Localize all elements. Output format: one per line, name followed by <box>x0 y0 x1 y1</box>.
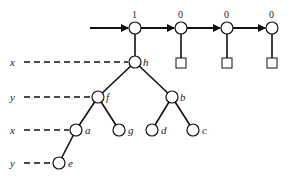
node-label-f: f <box>106 91 111 103</box>
pointer-label-y-1: y <box>9 91 15 103</box>
node-label-b: b <box>180 91 186 103</box>
tree-diagram: x y x y 1 0 0 0 h f b a g d c e <box>0 0 288 179</box>
null-square-3 <box>267 58 277 68</box>
header-value-1: 1 <box>132 9 137 20</box>
null-square-2 <box>222 58 232 68</box>
tree-node-c <box>187 124 199 136</box>
header-value-3: 0 <box>224 9 229 20</box>
tree-node-b <box>166 91 178 103</box>
pointer-label-y-2: y <box>9 157 15 169</box>
pointer-label-x-1: x <box>9 56 15 68</box>
node-label-c: c <box>202 124 207 136</box>
header-value-4: 0 <box>269 9 274 20</box>
node-label-e: e <box>68 157 73 169</box>
header-node-2 <box>175 22 187 34</box>
tree-node-a <box>70 124 82 136</box>
pointer-label-x-2: x <box>9 124 15 136</box>
tree-node-e <box>53 157 65 169</box>
header-node-4 <box>266 22 278 34</box>
header-node-3 <box>221 22 233 34</box>
edge-h-b <box>135 62 172 97</box>
node-label-d: d <box>161 124 167 136</box>
header-node-1 <box>129 22 141 34</box>
null-square-1 <box>176 58 186 68</box>
node-label-a: a <box>85 124 91 136</box>
node-label-g: g <box>128 124 134 136</box>
tree-node-h <box>129 56 141 68</box>
tree-node-d <box>146 124 158 136</box>
edge-h-f <box>98 62 135 97</box>
tree-node-f <box>92 91 104 103</box>
tree-node-g <box>113 124 125 136</box>
node-label-h: h <box>143 56 149 68</box>
header-value-2: 0 <box>178 9 183 20</box>
